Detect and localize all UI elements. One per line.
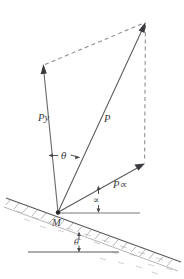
hatch-stroke [167, 260, 172, 266]
vector-palpha-label: P∝ [112, 179, 127, 190]
vector-p-label: P [103, 113, 111, 124]
hatch-stroke [77, 227, 82, 232]
ground-texture-stroke [148, 264, 154, 266]
vector-palpha-group: P∝ [59, 164, 146, 213]
ground-texture-stroke [100, 258, 106, 260]
origin-point-dot [56, 210, 60, 214]
inclined-ground-group [4, 198, 181, 274]
vector-palpha-arrowhead [134, 164, 145, 171]
ground-texture-stroke [66, 228, 73, 230]
angle-alpha-label: ∝ [93, 195, 99, 205]
vector-p-arrowhead [139, 22, 146, 33]
hatch-stroke [149, 253, 154, 259]
angle-theta-right-arrowhead [75, 155, 80, 159]
vector-diagram-figure: Py P P∝ θ [0, 0, 184, 279]
hatch-stroke [14, 203, 19, 209]
vector-py-arrowhead [41, 64, 47, 74]
ground-texture-stroke [58, 230, 64, 232]
hatch-stroke [113, 240, 118, 246]
angle-theta-incline-label: θ [74, 238, 79, 247]
angle-theta-left-arrowhead [48, 154, 53, 158]
ground-texture-stroke [118, 262, 124, 264]
vector-py-label: Py [37, 112, 49, 123]
ground-texture-stroke [136, 266, 142, 268]
vector-p-shaft [59, 28, 144, 211]
angle-alpha-up-arrowhead [97, 185, 101, 190]
ground-texture-stroke [152, 272, 158, 274]
construction-lines-group [45, 23, 145, 162]
ground-texture-stroke [24, 219, 30, 221]
angle-theta-incline-group: θ [74, 232, 81, 253]
hatch-stroke [23, 207, 28, 212]
angle-alpha-down-arrowhead [97, 208, 101, 213]
hatch-stroke [32, 210, 37, 216]
hatch-stroke [95, 233, 100, 239]
hatch-stroke [6, 200, 10, 205]
vector-py-shaft [44, 71, 58, 212]
hatch-stroke [131, 247, 136, 252]
angle-theta-py-p-label: θ [61, 151, 67, 161]
vector-p-group: P [59, 22, 146, 211]
hatch-stroke [41, 213, 46, 219]
ground-hatching-group [6, 200, 172, 266]
ground-texture-group [16, 211, 172, 274]
ground-texture-stroke [40, 226, 46, 228]
vector-diagram-canvas: Py P P∝ θ [0, 0, 184, 279]
hatch-stroke [68, 223, 73, 229]
incline-surface-lower-edge [4, 207, 178, 271]
hatch-stroke [122, 243, 127, 249]
dashed-line-apex-to-palpha [145, 25, 146, 162]
vector-py-group: Py [37, 64, 58, 212]
angle-alpha-group: ∝ [93, 185, 100, 213]
